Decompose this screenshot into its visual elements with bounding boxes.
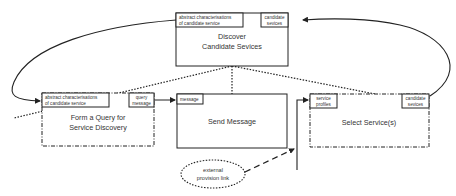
- port-label: of candidate service: [45, 101, 86, 106]
- port-label: candidate: [265, 15, 285, 20]
- port-label: message: [180, 97, 199, 102]
- port-label: abstract characterisations: [45, 95, 98, 100]
- node-form-query[interactable]: abstract characterisations of candidate …: [42, 93, 154, 146]
- arc-candidate-sevices: [303, 19, 450, 96]
- external-provision-link[interactable]: external provision link: [181, 160, 245, 188]
- port-label: query: [136, 95, 148, 100]
- port-label: sevices: [267, 21, 283, 26]
- node-title: Form a Query for: [71, 113, 126, 122]
- node-title: Service Discovery: [69, 123, 127, 132]
- node-discover-candidate-services[interactable]: abstract characterisations of candidate …: [176, 13, 288, 66]
- node-title: Discover: [218, 32, 247, 41]
- node-title: Candidate Sevices: [202, 42, 262, 51]
- node-send-message[interactable]: message Send Message: [177, 94, 287, 148]
- edge-external-link: [245, 149, 294, 172]
- ellipse-label: provision link: [197, 175, 230, 181]
- port-label: message: [132, 101, 151, 106]
- node-title: Send Message: [208, 117, 256, 126]
- node-title: Select Service(s): [342, 118, 396, 127]
- port-label: candidate: [406, 96, 426, 101]
- port-label: profiles: [316, 102, 332, 107]
- node-select-services[interactable]: service profiles candidate sevices Selec…: [310, 94, 429, 147]
- port-label: of candidate service: [179, 21, 220, 26]
- arc-abstract-characterisations: [12, 20, 176, 101]
- ellipse-label: external: [203, 167, 223, 173]
- port-label: sevices: [408, 102, 424, 107]
- port-label: service: [316, 96, 331, 101]
- port-label: abstract characterisations: [179, 15, 232, 20]
- edge-to-service-profiles: [297, 100, 308, 170]
- diagram-canvas: abstract characterisations of candidate …: [0, 0, 456, 196]
